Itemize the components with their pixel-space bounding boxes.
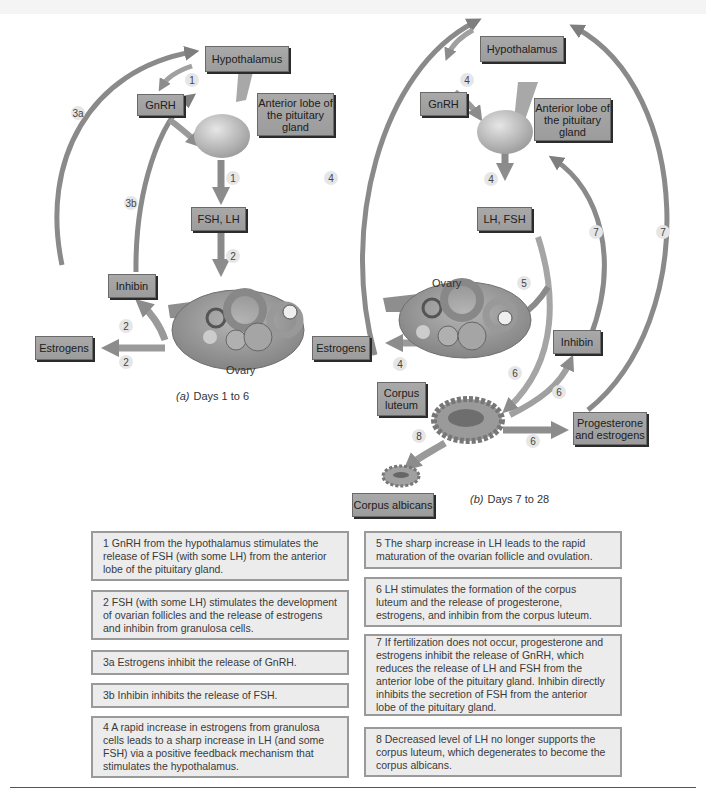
corpus-luteum-icon — [434, 399, 502, 441]
step-badge: 7 — [656, 225, 670, 239]
note-step-5: 5 The sharp increase in LH leads to the … — [364, 531, 622, 569]
caption-panel-a: (a)Days 1 to 6 — [176, 390, 249, 402]
step-badge: 6 — [508, 366, 522, 380]
step-badge: 4 — [484, 172, 498, 186]
note-step-3a: 3a Estrogens inhibit the release of GnRH… — [91, 650, 349, 675]
step-badge: 2 — [119, 319, 133, 333]
arrow-3b — [136, 98, 190, 272]
step-badge: 2 — [226, 249, 240, 263]
arrow-7-inner — [555, 160, 604, 338]
step-badge: 2 — [119, 355, 133, 369]
label-gnrh-b: GnRH — [420, 92, 467, 116]
label-corpus-luteum: Corpus luteum — [377, 382, 426, 416]
label-inhibin-b: Inhibin — [553, 330, 601, 354]
arrow-3a — [57, 52, 192, 265]
label-estrogens-a: Estrogens — [35, 336, 93, 360]
note-step-1: 1 GnRH from the hypothalamus stimulates … — [91, 531, 349, 581]
ovary-a-icon — [168, 290, 304, 370]
label-hypothalamus-b: Hypothalamus — [480, 36, 564, 62]
note-step-2: 2 FSH (with some LH) stimulates the deve… — [91, 590, 349, 640]
label-gnrh-a: GnRH — [137, 94, 184, 116]
bottom-divider — [10, 787, 696, 788]
step-badge: 3a — [71, 106, 85, 120]
label-inhibin-a: Inhibin — [108, 274, 156, 298]
label-ovary-a: Ovary — [226, 364, 255, 376]
step-badge: 1 — [185, 73, 199, 87]
ovary-b-icon — [383, 282, 531, 358]
note-step-3b: 3b Inhibin inhibits the release of FSH. — [91, 683, 349, 708]
note-step-7: 7 If fertilization does not occur, proge… — [364, 634, 622, 716]
corpus-albicans-icon — [383, 466, 419, 486]
label-corpus-albicans: Corpus albicans — [352, 493, 434, 517]
caption-panel-b: (b)Days 7 to 28 — [470, 493, 549, 505]
label-fsh-lh: FSH, LH — [191, 207, 246, 231]
note-step-6: 6 LH stimulates the formation of the cor… — [364, 577, 622, 627]
step-badge: 8 — [412, 429, 426, 443]
pituitary-gland-b-icon — [477, 82, 538, 154]
step-badge: 6 — [552, 385, 566, 399]
step-badge: 1 — [226, 171, 240, 185]
label-estrogens-b: Estrogens — [312, 336, 370, 360]
step-badge: 4 — [393, 357, 407, 371]
step-badge: 4 — [460, 73, 474, 87]
label-anterior-lobe-a: Anterior lobe of the pituitary gland — [257, 93, 334, 136]
note-step-8: 8 Decreased level of LH no longer suppor… — [364, 727, 622, 777]
step-badge: 6 — [526, 434, 540, 448]
step-badge: 4 — [324, 171, 338, 185]
step-badge: 7 — [589, 225, 603, 239]
label-anterior-lobe-b: Anterior lobe of the pituitary gland — [534, 98, 611, 141]
label-hypothalamus-a: Hypothalamus — [205, 46, 289, 72]
label-lh-fsh: LH, FSH — [477, 207, 532, 231]
step-badge: 3b — [124, 196, 138, 210]
label-progesterone-estrogens: Progesterone and estrogens — [573, 412, 647, 445]
note-step-4: 4 A rapid increase in estrogens from gra… — [91, 716, 349, 778]
label-ovary-b: Ovary — [432, 277, 461, 289]
step-badge: 5 — [517, 276, 531, 290]
